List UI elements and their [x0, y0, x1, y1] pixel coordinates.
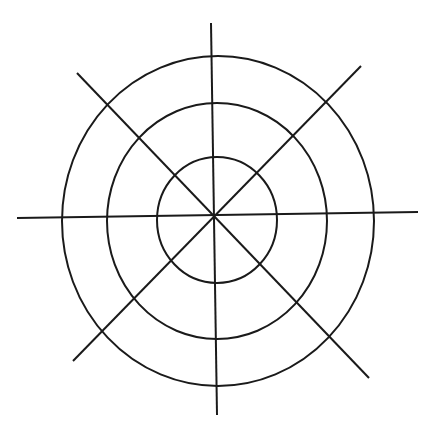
diagonal-tl-br-line: [77, 73, 369, 378]
radial-lines: [17, 23, 418, 415]
web-diagram: [0, 0, 422, 433]
